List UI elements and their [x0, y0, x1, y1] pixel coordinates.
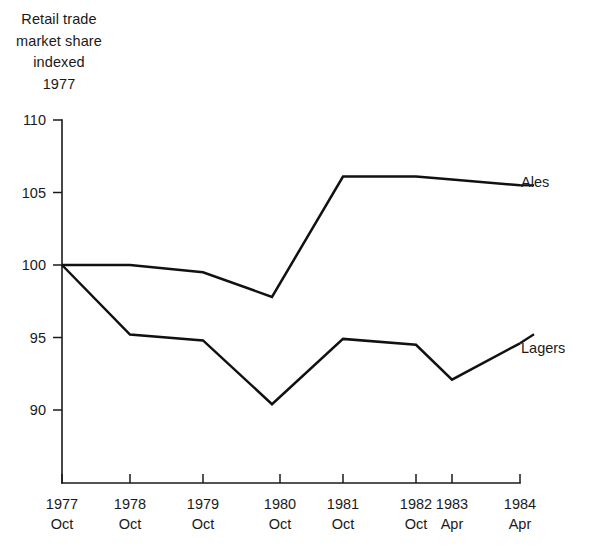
x-axis-label-1981: 1981 Oct: [313, 494, 373, 534]
x-axis-year-1979: 1979: [173, 494, 233, 514]
x-axis-label-1979: 1979 Oct: [173, 494, 233, 534]
y-axis-label-110: 110: [0, 113, 46, 128]
x-axis-year-1981: 1981: [313, 494, 373, 514]
x-axis-year-1983: 1983: [422, 494, 482, 514]
series-line-lagers: [62, 265, 520, 404]
y-tick-marks: [53, 120, 62, 410]
x-axis-month-1981: Oct: [313, 514, 373, 534]
y-axis-label-100: 100: [0, 258, 46, 273]
x-tick-marks: [62, 474, 520, 483]
x-axis-month-1978: Oct: [100, 514, 160, 534]
x-axis-month-1980: Oct: [250, 514, 310, 534]
x-axis-month-1984: Apr: [490, 514, 550, 534]
x-axis-month-1977: Oct: [32, 514, 92, 534]
series-line-ales: [62, 177, 520, 297]
series-label-ales: Ales: [521, 175, 549, 190]
chart-container: Retail trade market share indexed 1977: [0, 0, 590, 555]
x-axis-label-1984: 1984 Apr: [490, 494, 550, 534]
x-axis-label-1980: 1980 Oct: [250, 494, 310, 534]
series-label-lagers: Lagers: [521, 341, 565, 356]
x-axis-month-1979: Oct: [173, 514, 233, 534]
x-axis-year-1980: 1980: [250, 494, 310, 514]
x-axis-label-1983: 1983 Apr: [422, 494, 482, 534]
x-axis-label-1978: 1978 Oct: [100, 494, 160, 534]
x-axis-month-1983: Apr: [422, 514, 482, 534]
y-axis-label-90: 90: [0, 403, 46, 418]
y-axis-label-95: 95: [0, 331, 46, 346]
x-axis-year-1977: 1977: [32, 494, 92, 514]
y-axis-label-105: 105: [0, 186, 46, 201]
x-axis-year-1984: 1984: [490, 494, 550, 514]
x-axis-label-1977: 1977 Oct: [32, 494, 92, 534]
x-axis-year-1978: 1978: [100, 494, 160, 514]
plot-area: [0, 0, 590, 555]
